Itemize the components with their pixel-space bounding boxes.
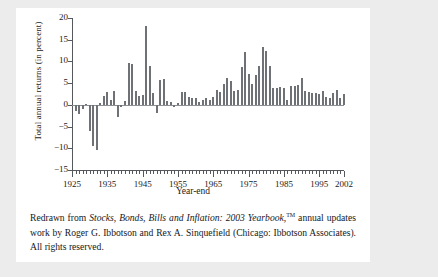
y-tick-label: 20 (38, 12, 68, 22)
x-tick-minor (97, 171, 98, 174)
bar (262, 47, 264, 105)
bar (173, 105, 175, 107)
bar (209, 100, 211, 105)
bar (135, 91, 137, 105)
y-tick-label: −5 (38, 121, 68, 131)
x-tick-label: 1975 (240, 179, 258, 189)
x-tick-minor (340, 171, 341, 174)
y-axis-line (72, 18, 73, 170)
y-tick-mark (68, 148, 72, 149)
x-tick-minor (234, 171, 235, 174)
x-tick-label: 1985 (275, 179, 293, 189)
x-tick-minor (287, 171, 288, 174)
y-tick-mark (68, 105, 72, 106)
x-tick-minor (100, 171, 101, 174)
x-tick-minor (266, 171, 267, 174)
bar (269, 66, 271, 105)
x-tick-minor (326, 171, 327, 174)
bar (325, 97, 327, 104)
bar (315, 93, 317, 105)
x-tick-minor (238, 171, 239, 174)
x-tick-minor (139, 171, 140, 174)
x-tick-major (213, 171, 214, 177)
bar (202, 100, 204, 105)
x-tick-label: 1925 (63, 179, 81, 189)
bar (152, 93, 154, 105)
x-tick-minor (312, 171, 313, 174)
bar (301, 78, 303, 104)
bar (258, 66, 260, 105)
x-tick-label: 1995 (310, 179, 328, 189)
x-tick-minor (199, 171, 200, 174)
x-tick-minor (83, 171, 84, 174)
x-tick-minor (125, 171, 126, 174)
bar (329, 98, 331, 105)
caption-source-title: Stocks, Bonds, Bills and Inflation: 2003… (89, 212, 286, 223)
x-tick-label: 1935 (98, 179, 116, 189)
y-tick-mark (68, 61, 72, 62)
x-tick-minor (316, 171, 317, 174)
bar (297, 85, 299, 105)
bar (159, 80, 161, 105)
x-tick-major (72, 171, 73, 177)
x-tick-minor (182, 171, 183, 174)
bar (170, 102, 172, 105)
bar (75, 105, 77, 112)
bar (145, 26, 147, 105)
x-tick-minor (259, 171, 260, 174)
x-tick-minor (150, 171, 151, 174)
bar (156, 105, 158, 113)
x-tick-minor (273, 171, 274, 174)
x-tick-label: 2002 (335, 179, 353, 189)
x-tick-minor (245, 171, 246, 174)
bar (110, 100, 112, 105)
x-tick-major (143, 171, 144, 177)
x-tick-minor (302, 171, 303, 174)
bar (85, 104, 87, 105)
bar (131, 64, 133, 104)
x-tick-label: 1965 (204, 179, 222, 189)
bar (248, 74, 250, 104)
x-tick-label: 1945 (134, 179, 152, 189)
caption-lead: Redrawn from (30, 212, 89, 223)
x-tick-minor (157, 171, 158, 174)
bar (223, 84, 225, 104)
x-tick-minor (189, 171, 190, 174)
y-tick-mark (68, 127, 72, 128)
x-tick-major (178, 171, 179, 177)
x-tick-minor (203, 171, 204, 174)
x-tick-minor (333, 171, 334, 174)
bar (89, 105, 91, 131)
x-tick-minor (164, 171, 165, 174)
x-tick-minor (76, 171, 77, 174)
bar (219, 92, 221, 105)
x-tick-minor (104, 171, 105, 174)
x-tick-minor (196, 171, 197, 174)
x-tick-minor (305, 171, 306, 174)
bar (195, 98, 197, 105)
y-tick-label: −15 (38, 164, 68, 174)
bar (336, 90, 338, 105)
bar (124, 101, 126, 105)
bar (272, 88, 274, 105)
x-tick-minor (224, 171, 225, 174)
y-tick-mark (68, 40, 72, 41)
x-tick-minor (153, 171, 154, 174)
bar (255, 75, 257, 105)
bar (138, 96, 140, 105)
bar (244, 52, 246, 105)
x-tick-major (319, 171, 320, 177)
bar (96, 105, 98, 150)
bar (332, 93, 334, 105)
bar (184, 92, 186, 105)
x-tick-minor (270, 171, 271, 174)
x-tick-major (249, 171, 250, 177)
x-tick-major (344, 171, 345, 177)
x-tick-minor (160, 171, 161, 174)
bar (188, 97, 190, 105)
bar (216, 90, 218, 105)
bar (308, 92, 310, 105)
bar (283, 88, 285, 105)
x-tick-minor (256, 171, 257, 174)
bar (265, 51, 267, 105)
